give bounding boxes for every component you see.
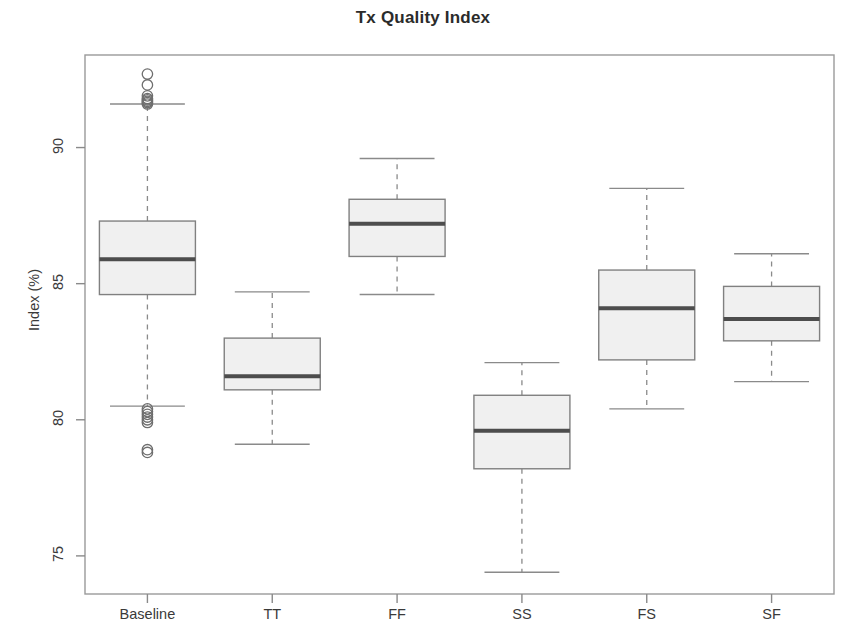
y-tick-label: 85 — [50, 262, 66, 302]
box-plot-group — [224, 292, 320, 444]
box-iqr — [224, 338, 320, 390]
x-tick-label: FS — [587, 606, 707, 622]
plot-frame — [85, 55, 834, 594]
y-axis-title: Index (%) — [26, 240, 42, 360]
y-tick-label: 75 — [50, 534, 66, 574]
box-plot-group — [349, 158, 445, 294]
plot-canvas — [0, 0, 846, 638]
x-tick-label: FF — [337, 606, 457, 622]
outlier-point — [142, 447, 152, 457]
box-plot-group — [99, 69, 195, 458]
outlier-point — [142, 69, 152, 79]
y-tick-label: 90 — [50, 126, 66, 166]
box-plot-group — [599, 188, 695, 409]
x-tick-label: Baseline — [87, 606, 207, 622]
box-iqr — [349, 199, 445, 256]
outlier-point — [142, 80, 152, 90]
outlier-point — [142, 445, 152, 455]
y-tick-label: 80 — [50, 398, 66, 438]
box-plot-figure: Tx Quality Index Index (%) 75808590Basel… — [0, 0, 846, 638]
box-iqr — [599, 270, 695, 360]
x-tick-label: SS — [462, 606, 582, 622]
x-tick-label: SF — [712, 606, 832, 622]
box-plot-group — [724, 254, 820, 382]
box-iqr — [724, 286, 820, 340]
box-plot-group — [474, 363, 570, 573]
chart-title: Tx Quality Index — [0, 8, 846, 28]
x-tick-label: TT — [212, 606, 332, 622]
